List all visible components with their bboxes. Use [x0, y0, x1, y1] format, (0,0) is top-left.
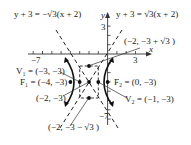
top-point	[87, 64, 91, 68]
center-point	[87, 80, 91, 84]
vertex-1-point	[78, 80, 82, 84]
focus-2-point	[106, 80, 110, 84]
v2-label: V₂ = (−1, −3)	[125, 95, 174, 104]
x-axis-label: x	[149, 45, 153, 54]
f1-label: F₁ = (−4, −3)	[20, 78, 67, 87]
asymptote-left-equation: y + 3 = −√3(x + 2)	[14, 10, 81, 19]
y-tick-3: 3	[101, 23, 106, 32]
y-tick-neg7: −7	[99, 112, 109, 121]
hyperbola-diagram: y + 3 = −√3(x + 2) y + 3 = √3(x + 2) y x…	[0, 0, 191, 145]
asymptote-positive-slope	[60, 30, 122, 128]
center-label: (−2, −3)	[36, 94, 66, 103]
top-point-label: (−2, −3 + √3 )	[124, 37, 175, 46]
asymptote-right-equation: y + 3 = √3(x + 2)	[116, 10, 178, 19]
y-axis-label: y	[101, 11, 105, 20]
vertex-2-point	[96, 80, 100, 84]
bottom-point-label: (−2, −3 − √3 )	[48, 123, 99, 132]
y-axis-arrow-icon	[105, 12, 110, 18]
v1-label: V₁ = (−3, −3)	[16, 67, 65, 76]
focus-1-point	[69, 80, 73, 84]
x-tick-3: 3	[133, 56, 138, 65]
f2-label: F₂ = (0, −3)	[114, 78, 156, 87]
x-tick-neg7: −7	[31, 56, 41, 65]
